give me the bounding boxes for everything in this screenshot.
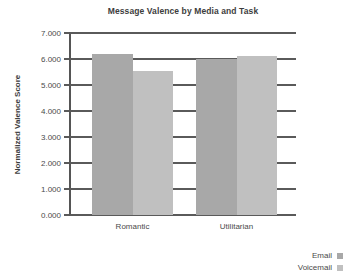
y-axis-title: Normalized Valence Score <box>13 35 22 215</box>
y-axis-tick <box>64 214 69 216</box>
y-axis-tick-label: 5.000 <box>41 81 61 90</box>
y-axis-tick-label: 7.000 <box>41 29 61 38</box>
legend-swatch-icon <box>337 265 343 271</box>
y-axis-tick <box>64 58 69 60</box>
y-axis-tick <box>64 110 69 112</box>
y-axis-tick <box>64 84 69 86</box>
chart-title: Message Valence by Media and Task <box>70 6 296 16</box>
gridline <box>70 32 296 34</box>
y-axis-tick-label: 6.000 <box>41 55 61 64</box>
y-axis-tick <box>64 136 69 138</box>
legend-item-voicemail[interactable]: Voicemail <box>298 263 343 272</box>
chart-legend: EmailVoicemail <box>298 251 343 272</box>
x-axis-label-utilitarian: Utilitarian <box>220 222 253 231</box>
legend-item-email[interactable]: Email <box>312 251 343 260</box>
bar-email-romantic <box>92 54 133 215</box>
y-axis-tick <box>64 32 69 34</box>
y-axis-tick <box>64 188 69 190</box>
legend-label: Email <box>312 251 332 260</box>
plot-area: 7.0006.0005.0004.0003.0002.0001.0000.000 <box>70 33 296 215</box>
y-axis-tick-label: 0.000 <box>41 211 61 220</box>
chart-container: Message Valence by Media and Task Normal… <box>0 0 349 278</box>
bar-email-utilitarian <box>196 59 237 215</box>
bar-voicemail-utilitarian <box>237 56 278 215</box>
y-axis-tick-label: 1.000 <box>41 185 61 194</box>
x-axis-label-romantic: Romantic <box>116 222 150 231</box>
legend-swatch-icon <box>337 253 343 259</box>
y-axis-tick <box>64 162 69 164</box>
y-axis-tick-label: 3.000 <box>41 133 61 142</box>
y-axis-tick-label: 4.000 <box>41 107 61 116</box>
bar-voicemail-romantic <box>133 71 174 215</box>
y-axis-tick-label: 2.000 <box>41 159 61 168</box>
legend-label: Voicemail <box>298 263 332 272</box>
